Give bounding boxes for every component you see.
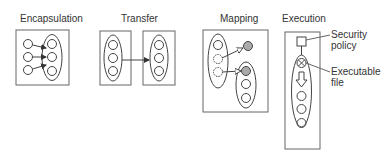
- security-policy-label: Security policy: [331, 29, 367, 51]
- security-policy-line2: policy: [331, 40, 367, 51]
- diagram-canvas: [0, 0, 387, 153]
- executable-file-line1: Executable: [331, 66, 380, 77]
- security-policy-box: [297, 37, 306, 46]
- executable-file-label: Executable file: [331, 66, 380, 88]
- executable-file-line2: file: [331, 77, 380, 88]
- security-policy-line1: Security: [331, 29, 367, 40]
- encapsulation-panel: [16, 30, 69, 85]
- transfer-panel: [100, 31, 175, 85]
- mapping-panel: [203, 30, 268, 112]
- execution-panel: [285, 32, 330, 149]
